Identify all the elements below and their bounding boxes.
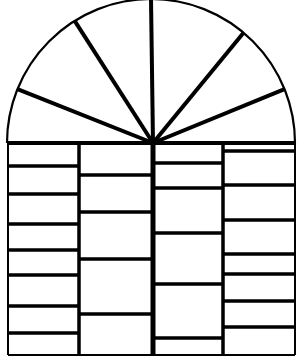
sunburst-arch [7,0,295,143]
brick-panels [8,143,295,355]
arch-spoke [151,0,153,143]
arch-spoke [17,89,153,143]
arch-spoke [75,21,153,143]
arched-window-diagram [0,0,301,362]
